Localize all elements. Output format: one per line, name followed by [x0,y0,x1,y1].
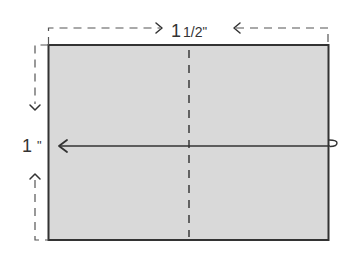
width-dimension: 11/2" [49,21,329,46]
width-label: 11/2" [171,21,207,41]
arrow-down-icon [30,105,40,110]
arrow-up-icon [30,174,40,179]
height-label: 1" [22,136,42,156]
height-dimension: 1" [22,45,49,240]
loop-end-icon [329,140,337,147]
fold-diagram: 11/2" 1" [0,0,352,260]
